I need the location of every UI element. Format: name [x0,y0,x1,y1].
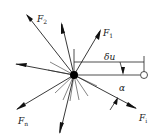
displaced-position-circle [141,72,148,79]
label-f2: F2 [36,14,47,25]
force-fn-arrow [16,75,74,110]
label-fi: Fi [138,113,147,124]
label-delta-u: δu [104,52,115,62]
force-diagram: F2 F1 Fi Fn δu α [0,0,159,138]
force-fi-arrow [74,75,137,109]
label-fn: Fn [17,116,28,127]
alpha-arrow-bottom [110,97,118,110]
label-alpha: α [119,83,125,93]
particle-dot [70,71,78,79]
label-f1: F1 [102,28,113,39]
force-down-arrow [59,75,74,134]
force-f1-arrow [74,29,101,75]
alpha-arrow-top [120,62,125,75]
force-diagram-svg: F2 F1 Fi Fn δu α [0,0,159,138]
